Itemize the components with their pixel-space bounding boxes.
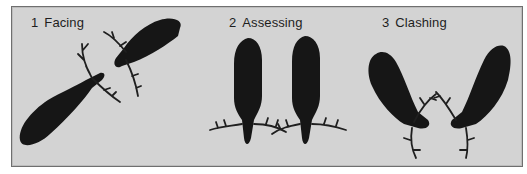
panel-2-stag-right (272, 36, 346, 144)
panel-3-stag-right (434, 46, 511, 158)
illustration (0, 0, 527, 174)
panel-1-stag-lower (20, 44, 120, 145)
panel-2-stag-left (210, 38, 286, 144)
panel-1-stag-upper (104, 18, 181, 96)
panel-3-stag-left (369, 52, 436, 158)
